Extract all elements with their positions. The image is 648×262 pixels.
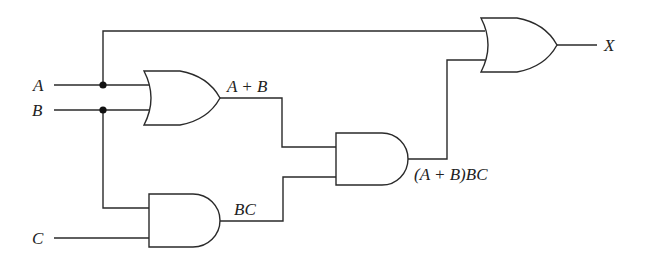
and-gate-1 (149, 194, 220, 247)
logic-circuit-diagram: A B C A + B BC (A + B)BC X (0, 0, 648, 262)
label-bc: BC (234, 200, 256, 219)
input-label-b: B (32, 101, 43, 120)
or-gate-1 (144, 71, 220, 125)
junction-dot-b (99, 106, 106, 113)
input-label-c: C (32, 229, 44, 248)
label-a-plus-b: A + B (226, 77, 268, 96)
wire-or1-to-and2 (220, 98, 336, 147)
junction-dot-a (99, 81, 106, 88)
and-gate-2 (336, 133, 408, 185)
wire-and2-to-or2 (408, 60, 485, 159)
label-a-plus-b-times-bc: (A + B)BC (414, 165, 488, 184)
output-label-x: X (603, 36, 615, 55)
wire-b-to-and1 (103, 110, 150, 208)
or-gate-2 (481, 18, 557, 72)
input-label-a: A (32, 76, 44, 95)
